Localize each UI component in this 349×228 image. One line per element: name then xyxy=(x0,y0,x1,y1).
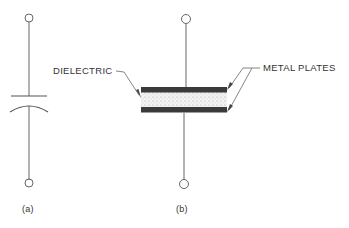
dielectric-leader xyxy=(116,71,139,95)
capacitor-diagram xyxy=(0,0,349,228)
bottom-metal-plate xyxy=(141,107,227,113)
dielectric-layer xyxy=(141,92,227,107)
metal-plates-arrow-bottom-icon xyxy=(227,104,233,112)
top-metal-plate xyxy=(141,87,227,93)
capacitor-construction xyxy=(116,15,260,189)
terminal-bottom-b xyxy=(180,180,189,189)
metal-plates-leader-bottom xyxy=(229,68,252,110)
dielectric-arrow-icon xyxy=(136,89,141,98)
schematic-symbol xyxy=(10,14,48,187)
metal-plates-leader-top xyxy=(229,68,260,88)
caption-a: (a) xyxy=(22,204,34,214)
terminal-top-a xyxy=(25,14,33,22)
caption-b: (b) xyxy=(176,204,188,214)
dielectric-label: DIELECTRIC xyxy=(53,65,112,76)
terminal-bottom-a xyxy=(25,179,33,187)
terminal-top-b xyxy=(182,15,191,24)
metal-plates-label: METAL PLATES xyxy=(263,62,336,73)
